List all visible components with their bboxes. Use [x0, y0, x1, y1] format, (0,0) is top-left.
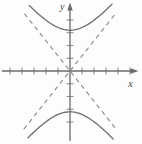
y-axis-label: y [59, 1, 65, 12]
x-axis-label: x [127, 78, 133, 89]
y-axis-arrowhead [67, 3, 72, 11]
hyperbola-figure: y x [0, 0, 142, 144]
x-axis-arrowhead [131, 68, 139, 74]
hyperbola-plot: y x [0, 0, 142, 144]
